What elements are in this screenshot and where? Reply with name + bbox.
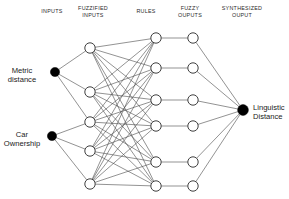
node-r6 — [151, 181, 161, 191]
column-header-fuzzy-outputs: FUZZY OUPUTS — [178, 5, 202, 18]
connection-line — [59, 74, 85, 89]
column-header-inputs: INPUTS — [41, 8, 62, 15]
connection-line — [95, 39, 151, 47]
column-header-rules: RULES — [136, 8, 155, 15]
node-group-inputs — [47, 67, 59, 140]
node-fz3 — [85, 117, 95, 127]
node-fz4 — [85, 146, 95, 156]
input-label-metric-distance: Metric distance — [8, 66, 36, 85]
connection-line — [93, 73, 154, 180]
output-label-linguistic-distance: Linguistic Distance — [253, 103, 285, 122]
connection-line — [198, 112, 238, 125]
node-fo1 — [188, 33, 198, 43]
connection-line — [196, 115, 240, 182]
node-in1 — [50, 67, 59, 76]
node-r3 — [151, 95, 161, 105]
node-fz1 — [85, 43, 95, 53]
edge-layer — [55, 38, 240, 186]
connection-line — [95, 94, 152, 123]
node-fo5 — [188, 157, 198, 167]
node-out1 — [238, 105, 249, 116]
connection-line — [197, 71, 239, 106]
node-r5 — [151, 157, 161, 167]
connection-line — [93, 42, 153, 118]
node-in2 — [47, 131, 56, 140]
edges-fuzzified-to-rules — [92, 39, 154, 186]
node-group-fuzzy-outputs — [188, 33, 198, 191]
connection-line — [198, 101, 238, 109]
connection-line — [94, 41, 152, 88]
connection-line — [92, 43, 154, 180]
edges-fuzzy-outputs-to-output — [196, 42, 240, 181]
column-header-fuzzified-inputs: FUZZIFIED INPUTS — [78, 5, 108, 18]
node-r2 — [151, 63, 161, 73]
node-fo2 — [188, 63, 198, 73]
edges-rules-to-fuzzy-outputs — [161, 38, 188, 186]
connection-line — [95, 184, 151, 186]
node-group-fuzzified-inputs — [85, 43, 95, 189]
connection-line — [95, 93, 151, 100]
node-group-synthesized-output — [238, 105, 249, 116]
node-r4 — [151, 121, 161, 131]
node-fo4 — [188, 121, 198, 131]
input-label-car-ownership: Car Ownership — [4, 130, 40, 149]
node-fo3 — [188, 95, 198, 105]
connection-line — [56, 124, 85, 135]
node-fz5 — [85, 179, 95, 189]
connection-line — [197, 114, 240, 158]
node-fo6 — [188, 181, 198, 191]
node-group-rules — [151, 33, 161, 191]
node-fz2 — [85, 87, 95, 97]
connection-line — [55, 140, 87, 180]
network-canvas — [0, 0, 289, 199]
connection-line — [56, 138, 85, 149]
connection-line — [196, 42, 240, 105]
edges-inputs-to-fuzzified — [55, 51, 87, 180]
connection-line — [94, 126, 153, 183]
column-header-synthesized-output: SYNTHESIZED OUPUT — [222, 5, 263, 18]
node-r1 — [151, 33, 161, 43]
fuzzy-network-diagram: INPUTS FUZZIFIED INPUTS RULES FUZZY OUPU… — [0, 0, 289, 199]
connection-line — [59, 51, 86, 69]
